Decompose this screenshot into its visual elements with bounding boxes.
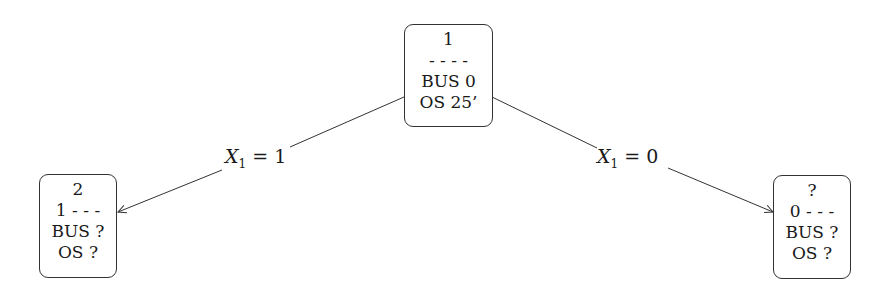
edge-label-right-value: = 0	[618, 145, 658, 167]
right-node-id: ?	[774, 180, 850, 201]
root-node: 1 - - - - BUS 0 OS 25’	[404, 24, 493, 127]
right-node-bus: BUS ?	[774, 222, 850, 243]
edge-label-right: X1 = 0	[597, 145, 658, 171]
edge-label-right-var: X	[597, 145, 611, 167]
left-node-os: OS ?	[40, 242, 116, 263]
right-node-path: 0 - - -	[774, 201, 850, 222]
left-node-id: 2	[40, 179, 116, 200]
edge-label-left-value: = 1	[246, 145, 286, 167]
root-node-os: OS 25’	[405, 92, 492, 113]
root-node-path: - - - -	[405, 50, 492, 71]
edge-label-left: X1 = 1	[225, 145, 286, 171]
root-node-bus: BUS 0	[405, 71, 492, 92]
left-node: 2 1 - - - BUS ? OS ?	[39, 174, 117, 278]
left-node-path: 1 - - -	[40, 200, 116, 221]
right-node: ? 0 - - - BUS ? OS ?	[773, 175, 851, 279]
edge-label-left-var: X	[225, 145, 239, 167]
root-node-id: 1	[405, 29, 492, 50]
right-node-os: OS ?	[774, 243, 850, 264]
left-node-bus: BUS ?	[40, 221, 116, 242]
